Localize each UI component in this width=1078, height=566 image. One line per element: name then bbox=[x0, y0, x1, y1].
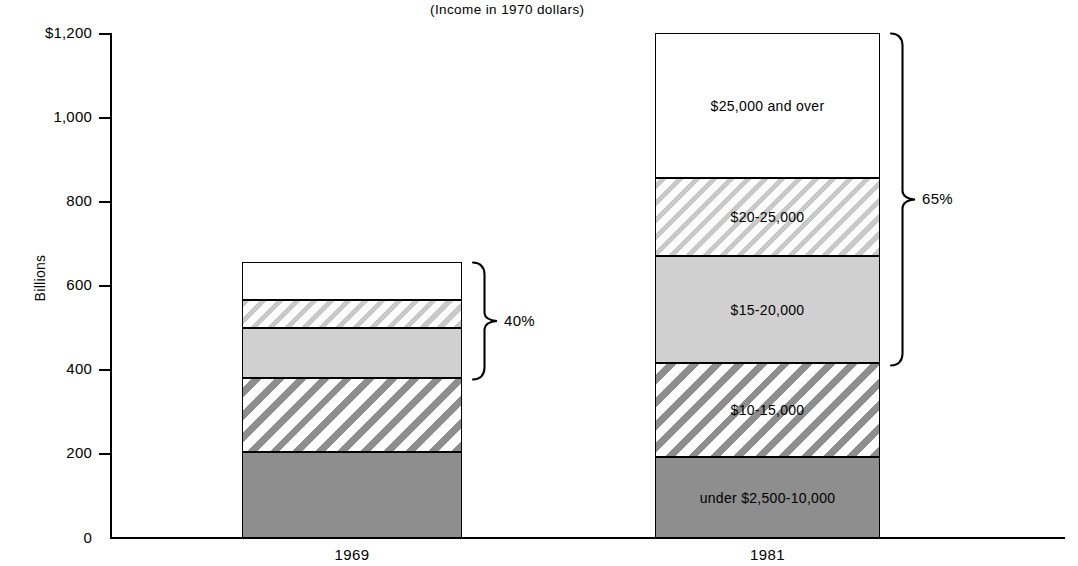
y-tick-label-200-wrap: 200 bbox=[0, 444, 92, 462]
y-tick-label-1000: 1,000 bbox=[53, 108, 92, 125]
y-tick-1200 bbox=[99, 33, 112, 35]
segment-label-1981-15-20000: $15-20,000 bbox=[731, 302, 805, 318]
segment-1981-10-15000[interactable]: $10-15,000 bbox=[655, 363, 880, 457]
y-tick-label-800: 800 bbox=[66, 192, 92, 209]
category-label-1981: 1981 bbox=[655, 546, 880, 563]
bracket-1969-40-percent bbox=[470, 260, 500, 382]
bracket-1981-65-percent bbox=[888, 31, 918, 368]
y-tick-label-1000-wrap: 1,000 bbox=[0, 108, 92, 126]
y-tick-200 bbox=[99, 453, 112, 455]
segment-1969-under-2500-10000[interactable] bbox=[242, 452, 462, 538]
bar-1981[interactable]: $25,000 and over $20-25,000 $15-20,000 $… bbox=[655, 33, 880, 538]
bracket-label-65-percent: 65% bbox=[922, 190, 953, 207]
segment-1981-20-25000[interactable]: $20-25,000 bbox=[655, 178, 880, 256]
y-tick-label-600: 600 bbox=[66, 276, 92, 293]
y-tick-label-400: 400 bbox=[66, 360, 92, 377]
segment-1981-under-2500-10000[interactable]: under $2,500-10,000 bbox=[655, 457, 880, 538]
y-tick-800 bbox=[99, 201, 112, 203]
segment-1969-20-25000[interactable] bbox=[242, 300, 462, 327]
chart-subtitle: (Income in 1970 dollars) bbox=[430, 2, 584, 17]
segment-1981-15-20000[interactable]: $15-20,000 bbox=[655, 256, 880, 363]
segment-label-1981-10-15000: $10-15,000 bbox=[731, 402, 805, 418]
bar-1969[interactable] bbox=[242, 33, 462, 538]
y-tick-600 bbox=[99, 285, 112, 287]
segment-1969-15-20000[interactable] bbox=[242, 328, 462, 379]
segment-label-1981-20-25000: $20-25,000 bbox=[731, 209, 805, 225]
segment-label-1981-under-2500-10000: under $2,500-10,000 bbox=[700, 490, 836, 506]
segment-1969-10-15000[interactable] bbox=[242, 378, 462, 452]
category-label-1969: 1969 bbox=[242, 546, 462, 563]
y-tick-label-1200-wrap: $1,200 bbox=[0, 24, 92, 42]
y-tick-label-800-wrap: 800 bbox=[0, 192, 92, 210]
segment-1969-25000-and-over[interactable] bbox=[242, 262, 462, 300]
y-tick-label-600-wrap: 600 bbox=[0, 276, 92, 294]
segment-label-1981-25000-and-over: $25,000 and over bbox=[711, 98, 825, 114]
y-tick-label-200: 200 bbox=[66, 444, 92, 461]
y-tick-label-0: 0 bbox=[83, 529, 92, 546]
y-tick-400 bbox=[99, 369, 112, 371]
y-tick-1000 bbox=[99, 117, 112, 119]
stacked-bar-chart: (Income in 1970 dollars) Billions $1,200… bbox=[0, 0, 1078, 566]
y-tick-label-0-wrap: 0 bbox=[0, 529, 92, 547]
y-tick-label-400-wrap: 400 bbox=[0, 360, 92, 378]
y-tick-label-1200: $1,200 bbox=[45, 24, 92, 41]
segment-1981-25000-and-over[interactable]: $25,000 and over bbox=[655, 33, 880, 178]
bracket-label-40-percent: 40% bbox=[504, 312, 535, 329]
